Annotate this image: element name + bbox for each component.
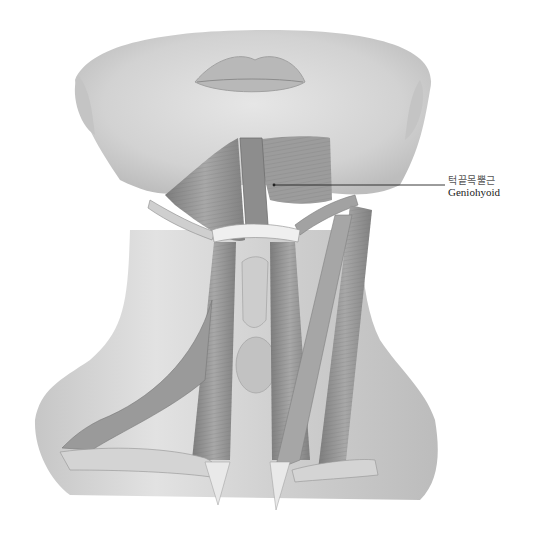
leader-dot xyxy=(273,184,276,187)
neck-anatomy-illustration xyxy=(0,0,540,548)
geniohyoid-label: 턱끝목뿔근 Geniohyoid xyxy=(448,176,500,198)
thyroid-gland xyxy=(236,337,276,393)
mylohyoid-right-fibers xyxy=(255,136,332,203)
label-english: Geniohyoid xyxy=(448,187,500,199)
thyroid-cartilage xyxy=(242,257,268,328)
label-korean: 턱끝목뿔근 xyxy=(448,176,500,187)
